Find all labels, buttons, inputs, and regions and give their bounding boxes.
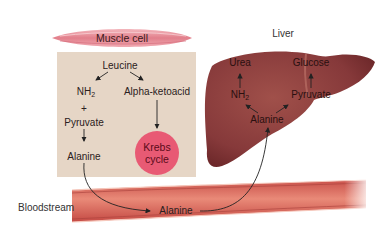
muscle-cell-label: Muscle cell [96,32,148,44]
blood-alanine-label: Alanine [159,205,192,217]
diagram-graphics [0,0,392,231]
liver-alanine-label: Alanine [250,114,283,126]
liver-pyruvate-label: Pyruvate [291,89,330,101]
bloodstream-label: Bloodstream [18,202,74,214]
nh2-text: NH [231,89,245,100]
nh2-subscript: 2 [91,91,95,98]
liver-nh2-label: NH2 [231,89,249,101]
muscle-nh2-label: NH2 [77,86,95,98]
krebs-cycle-label: Krebs cycle [143,141,170,165]
nh2-subscript: 2 [245,94,249,101]
leucine-label: Leucine [102,60,137,72]
muscle-pyruvate-label: Pyruvate [64,117,103,129]
krebs-line-1: Krebs [143,141,170,153]
liver-title: Liver [272,28,294,40]
blood-vessel [72,176,368,226]
alpha-ketoacid-label: Alpha-ketoacid [124,86,190,98]
plus-sign: + [81,103,87,115]
urea-label: Urea [229,57,251,69]
krebs-line-2: cycle [143,153,170,165]
muscle-alanine-label: Alanine [67,151,100,163]
nh2-text: NH [77,86,91,97]
glucose-label: Glucose [293,57,330,69]
